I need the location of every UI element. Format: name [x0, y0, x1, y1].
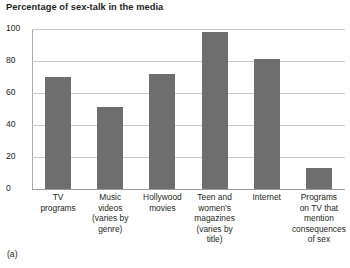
- y-axis-tick-label: 100: [6, 24, 28, 33]
- gridline: [32, 61, 345, 62]
- gridline: [32, 189, 345, 190]
- plot-area: [32, 29, 345, 189]
- panel-letter: (a): [7, 249, 18, 259]
- bar: [306, 168, 332, 189]
- y-axis-tick-label: 20: [6, 152, 28, 161]
- x-axis-label-line: (varies by: [78, 213, 142, 224]
- x-axis-label-line: magazines: [183, 213, 247, 224]
- gridline: [32, 29, 345, 30]
- x-axis-label-line: title): [183, 234, 247, 245]
- x-axis-label-line: of sex: [287, 234, 350, 245]
- x-axis-category-label: Programson TV thatmentionconsequencesof …: [287, 192, 350, 245]
- x-axis-label-line: consequences: [287, 224, 350, 235]
- x-axis-label-line: women's: [183, 203, 247, 214]
- x-axis-label-line: Programs: [287, 192, 350, 203]
- x-axis-label-line: mention: [287, 213, 350, 224]
- gridline: [32, 125, 345, 126]
- bar: [202, 32, 228, 189]
- y-axis-tick-label: 60: [6, 88, 28, 97]
- x-axis-label-line: (varies by: [183, 224, 247, 235]
- bar: [149, 74, 175, 189]
- y-axis-tick-label: 0: [6, 184, 28, 193]
- y-axis-tick-label: 80: [6, 56, 28, 65]
- bar: [45, 77, 71, 189]
- bar: [254, 59, 280, 189]
- x-axis-label-line: on TV that: [287, 203, 350, 214]
- chart-title: Percentage of sex-talk in the media: [6, 2, 163, 12]
- gridline: [32, 93, 345, 94]
- x-axis-category-labels: TVprogramsMusicvideos(varies bygenre)Hol…: [32, 192, 345, 254]
- gridline: [32, 157, 345, 158]
- x-axis-label-line: genre): [78, 224, 142, 235]
- y-axis-tick-label: 40: [6, 120, 28, 129]
- figure-panel-a: Percentage of sex-talk in the media 0204…: [0, 0, 350, 268]
- bar: [97, 107, 123, 189]
